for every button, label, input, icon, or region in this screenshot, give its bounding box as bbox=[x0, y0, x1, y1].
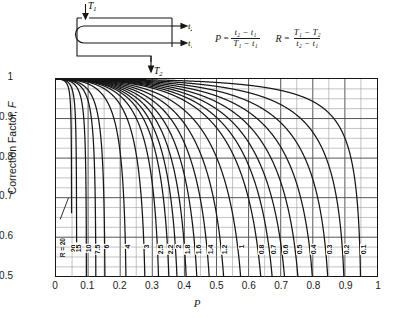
plot-area: 2015107.56432.52.221.81.61.41.210.80.70.… bbox=[55, 78, 378, 277]
x-tick-label: 1 bbox=[358, 280, 394, 291]
formula-R-denominator: t₂ − t₁ bbox=[294, 38, 320, 48]
correction-factor-chart: Correction Factor, F 2015107.56432.52.22… bbox=[0, 74, 394, 318]
formula-group: P = t₂ − t₁ T₁ − t₁ R = T₁ − T₂ t₂ − t₁ bbox=[215, 18, 394, 58]
formula-P-denominator: T₁ − t₁ bbox=[231, 38, 259, 48]
label-T1: T1 bbox=[88, 1, 97, 12]
formula-P: P = t₂ − t₁ T₁ − t₁ bbox=[215, 28, 260, 48]
equals-sign: = bbox=[223, 33, 229, 43]
y-tick-label: 1 bbox=[0, 71, 13, 82]
y-tick-label: 0.7 bbox=[0, 190, 13, 201]
label-t1: t1 bbox=[188, 38, 192, 49]
label-t2: t2 bbox=[188, 21, 192, 32]
x-axis-label: P bbox=[0, 297, 394, 309]
formula-R-symbol: R bbox=[276, 33, 282, 44]
formula-P-symbol: P bbox=[215, 33, 221, 44]
y-tick-label: 0.9 bbox=[0, 111, 13, 122]
annotation-leader-line bbox=[56, 79, 377, 277]
figure-header: T1 T2 t2 t1 P = bbox=[0, 0, 394, 78]
y-tick-label: 0.6 bbox=[0, 230, 13, 241]
equals-sign: = bbox=[284, 33, 290, 43]
formula-R-numerator: T₁ − T₂ bbox=[292, 28, 323, 37]
heat-exchanger-schematic: T1 T2 t2 t1 bbox=[62, 0, 192, 78]
y-tick-label: 0.5 bbox=[0, 270, 13, 281]
figure-page: T1 T2 t2 t1 P = bbox=[0, 0, 394, 318]
formula-P-numerator: t₂ − t₁ bbox=[232, 28, 258, 37]
y-tick-label: 0.8 bbox=[0, 151, 13, 162]
formula-R: R = T₁ − T₂ t₂ − t₁ bbox=[276, 28, 323, 48]
